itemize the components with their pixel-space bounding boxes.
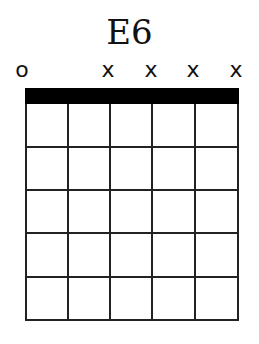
fret-line-2	[25, 189, 239, 191]
string-line-2	[67, 104, 69, 321]
string-line-4	[151, 104, 153, 321]
string-line-1	[25, 104, 27, 321]
fret-line-4	[25, 276, 239, 278]
string-6-muted-marker: x	[226, 58, 246, 82]
chord-title: E6	[0, 12, 259, 52]
string-4-muted-marker: x	[141, 58, 161, 82]
string-line-3	[109, 104, 111, 321]
string-line-6	[237, 104, 239, 321]
fret-line-5	[25, 319, 239, 321]
string-line-5	[194, 104, 196, 321]
string-1-open-marker: o	[12, 58, 32, 82]
string-5-muted-marker: x	[183, 58, 203, 82]
string-3-muted-marker: x	[98, 58, 118, 82]
fret-line-1	[25, 146, 239, 148]
nut-bar	[25, 88, 239, 104]
fret-line-3	[25, 232, 239, 234]
